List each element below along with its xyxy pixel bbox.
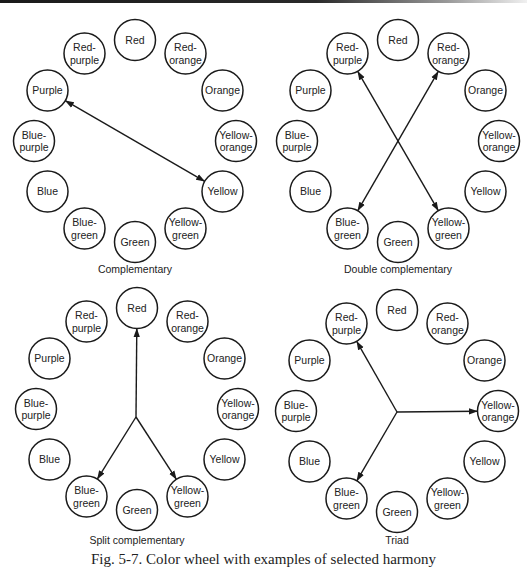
node-label: Yellow- (219, 129, 253, 141)
color-node-yellow: Yellow (202, 171, 243, 212)
node-label: orange (171, 322, 204, 334)
node-label: Yellow- (171, 484, 205, 496)
color-node-red: Red (378, 20, 419, 61)
node-label: purple (282, 141, 311, 153)
node-label: Yellow- (482, 129, 516, 141)
arrow-hub-to-yellow-orange (397, 411, 478, 412)
color-node-green: Green (378, 222, 419, 263)
node-label: orange (432, 54, 465, 66)
node-label: Yellow (470, 455, 500, 467)
node-label: Red- (73, 41, 96, 53)
color-node-yellow: Yellow (464, 441, 505, 482)
color-node-red-orange: Red-orange (167, 301, 208, 342)
arrow-hub-to-blue-green (357, 412, 397, 481)
node-label: purple (21, 409, 50, 421)
node-label: Green (120, 236, 149, 248)
arrow-hub-to-blue-green (97, 417, 136, 479)
node-label: orange (482, 411, 515, 423)
node-label: purple (72, 322, 101, 334)
node-label: Blue- (334, 486, 359, 498)
node-label: green (334, 229, 361, 241)
harmony-arrows (358, 71, 439, 210)
node-label: green (73, 497, 100, 509)
node-label: Blue- (74, 484, 99, 496)
node-label: Blue (300, 185, 321, 197)
color-node-blue-purple: Blue-purple (277, 121, 318, 162)
node-label: Purple (295, 84, 326, 96)
color-node-blue: Blue (289, 441, 330, 482)
node-label: Red (388, 34, 407, 46)
node-label: orange (483, 141, 516, 153)
color-node-red-orange: Red-orange (428, 33, 469, 74)
color-node-blue: Blue (29, 439, 70, 480)
harmony-arrows (97, 329, 176, 480)
node-label: Red- (437, 41, 460, 53)
arrow-hub-to-red-purple (357, 341, 397, 412)
harmony-arrows (65, 101, 204, 182)
node-label: Orange (205, 84, 240, 96)
node-label: Blue- (22, 129, 47, 141)
color-node-orange: Orange (202, 70, 243, 111)
node-label: Yellow (208, 185, 238, 197)
node-label: green (435, 229, 462, 241)
color-node-orange: Orange (204, 338, 245, 379)
node-label: purple (19, 141, 48, 153)
node-label: Green (382, 506, 411, 518)
color-node-blue-purple: Blue-purple (276, 391, 317, 432)
node-label: Red- (75, 309, 98, 321)
node-label: Blue- (284, 399, 309, 411)
node-label: orange (169, 54, 202, 66)
panel-double-complementary: RedRed-orangeOrangeYellow-orangeYellowYe… (277, 20, 520, 276)
color-node-orange: Orange (465, 70, 506, 111)
color-node-red-purple: Red-purple (64, 33, 105, 74)
color-node-red-purple: Red-purple (327, 33, 368, 74)
color-node-yellow-green: Yellow-green (165, 208, 206, 249)
node-label: Blue- (285, 129, 310, 141)
color-node-red: Red (117, 288, 158, 329)
node-label: green (172, 229, 199, 241)
node-label: green (434, 499, 461, 511)
color-node-orange: Orange (464, 340, 505, 381)
color-node-yellow-orange: Yellow-orange (478, 391, 519, 432)
panel-caption: Double complementary (344, 263, 453, 275)
color-node-red-purple: Red-purple (66, 301, 107, 342)
node-label: Yellow- (432, 216, 466, 228)
panel-caption: Triad (385, 534, 409, 546)
color-node-red-purple: Red-purple (326, 303, 367, 344)
color-node-yellow-orange: Yellow-orange (216, 121, 257, 162)
node-label: Yellow- (481, 399, 515, 411)
node-label: green (333, 499, 360, 511)
color-node-purple: Purple (27, 70, 68, 111)
color-node-yellow-green: Yellow-green (428, 208, 469, 249)
node-label: purple (333, 54, 362, 66)
node-label: Purple (34, 352, 65, 364)
node-label: Blue- (24, 397, 49, 409)
color-node-yellow: Yellow (465, 171, 506, 212)
node-label: Yellow- (169, 216, 203, 228)
node-label: Yellow (210, 453, 240, 465)
node-label: Orange (207, 352, 242, 364)
node-label: purple (70, 54, 99, 66)
node-label: Green (122, 504, 151, 516)
node-label: Red- (336, 41, 359, 53)
node-label: Blue- (72, 216, 97, 228)
color-node-green: Green (377, 492, 418, 533)
node-label: Yellow- (221, 397, 255, 409)
color-node-purple: Purple (290, 70, 331, 111)
node-label: Blue (37, 185, 58, 197)
color-node-red: Red (377, 290, 418, 331)
figure-caption: Fig. 5-7. Color wheel with examples of s… (0, 551, 527, 567)
panel-caption: Complementary (98, 263, 173, 275)
node-label: green (174, 497, 201, 509)
color-node-red-orange: Red-orange (165, 33, 206, 74)
panel-complementary: RedRed-orangeOrangeYellow-orangeYellowYe… (14, 20, 257, 276)
color-node-red-orange: Red-orange (427, 303, 468, 344)
arrow-hub-to-red (136, 329, 137, 418)
node-label: Red- (335, 311, 358, 323)
node-label: Red- (174, 41, 197, 53)
node-label: Yellow (471, 185, 501, 197)
panel-caption: Split complementary (89, 534, 185, 546)
node-label: Red- (436, 311, 459, 323)
color-node-blue-green: Blue-green (326, 478, 367, 519)
node-label: Blue (39, 453, 60, 465)
